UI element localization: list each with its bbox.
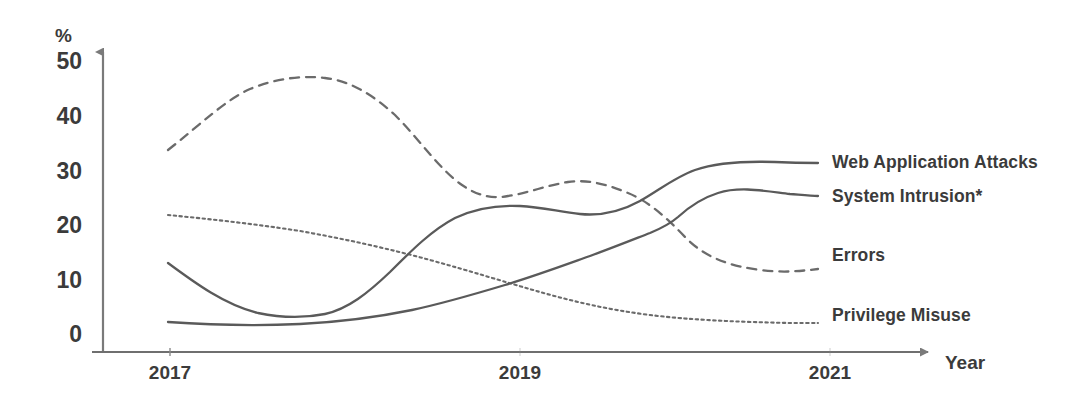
x-axis-title: Year (945, 352, 985, 374)
series-label-web-application-attacks: Web Application Attacks (832, 152, 1038, 173)
series-label-privilege-misuse: Privilege Misuse (832, 305, 971, 326)
y-tick-label-40: 40 (36, 103, 82, 130)
y-tick-label-10: 10 (36, 267, 82, 294)
x-tick-label-2021: 2021 (785, 362, 875, 384)
series-label-errors: Errors (832, 245, 885, 266)
series-label-system-intrusion: System Intrusion* (832, 186, 982, 207)
y-axis-unit-label: % (55, 25, 72, 47)
x-tick-label-2019: 2019 (475, 362, 565, 384)
chart-page: % 50 40 30 20 10 0 2017 2019 2021 Year W… (0, 0, 1091, 411)
y-tick-label-0: 0 (36, 321, 82, 348)
x-tick-label-2017: 2017 (125, 362, 215, 384)
series-line-errors (168, 77, 818, 272)
y-tick-label-30: 30 (36, 158, 82, 185)
series-line-privilege-misuse (168, 215, 818, 323)
series-line-web-application-attacks (168, 162, 818, 317)
series-line-system-intrusion (168, 189, 818, 325)
y-tick-label-50: 50 (36, 48, 82, 75)
y-tick-label-20: 20 (36, 212, 82, 239)
